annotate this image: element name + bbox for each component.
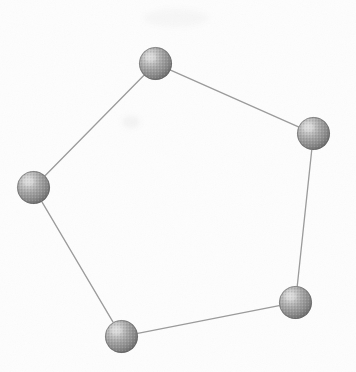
edge-bottomright-bottomleft (135, 305, 282, 334)
node-bottom-left-highlight (111, 326, 122, 335)
node-bottom-left (105, 320, 138, 353)
node-top (139, 47, 172, 80)
node-bottom-right (279, 286, 312, 319)
figure-canvas (0, 0, 356, 372)
edge-bottomleft-left (41, 200, 115, 325)
edges-layer (41, 69, 312, 334)
node-left (17, 171, 50, 204)
node-right (297, 117, 330, 150)
node-left-highlight (23, 177, 34, 186)
node-right-highlight (303, 123, 314, 132)
edge-left-top (43, 73, 145, 177)
nodes-layer (17, 47, 330, 353)
edge-right-bottomright (297, 147, 312, 288)
node-bottom-right-highlight (285, 292, 296, 301)
node-top-highlight (145, 53, 156, 62)
edge-top-right (168, 69, 300, 128)
graph-drawing (0, 0, 356, 372)
